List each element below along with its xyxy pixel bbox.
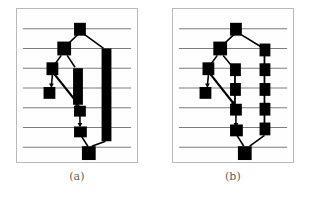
edge-n1-bar-mid [67,55,75,67]
graph-node [238,146,252,160]
panel-b-caption: (b) [172,170,294,183]
panel-a-drawing [17,9,137,162]
graph-node [200,87,212,99]
graph-node [44,87,56,99]
graph-node [82,146,96,160]
edge-chain-right-m6 [250,135,265,146]
dummy-node [260,103,271,116]
graph-node [74,126,87,137]
graph-node [213,42,227,56]
panel-a [16,8,138,163]
graph-node [230,104,242,116]
graph-node [74,106,86,117]
dummy-node [260,63,271,76]
graph-node [74,23,86,36]
figure-container: (a) [0,0,312,199]
panel-b [172,8,294,163]
graph-node [47,62,59,75]
dummy-node [230,83,241,96]
edge-barright-n6 [92,141,106,146]
dummy-node [230,63,241,76]
graph-node [57,42,71,56]
long-edge-bar-right [102,48,112,141]
dummy-node [260,83,271,96]
graph-node [230,124,243,136]
graph-node [230,23,242,36]
panel-b-drawing [173,9,293,162]
graph-node [203,62,215,75]
nodes-b [200,23,252,160]
dummy-node [260,44,271,57]
long-edge-bar-mid [73,68,83,105]
nodes-a [44,23,96,160]
panel-a-caption: (a) [16,170,138,183]
dummy-node [260,123,271,136]
edge-m5-m6 [237,135,244,146]
